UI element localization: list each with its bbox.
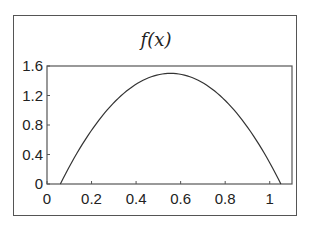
x-tick-label: 0.8 xyxy=(215,190,236,207)
series-line-f xyxy=(60,73,280,184)
x-tick-label: 0.4 xyxy=(126,190,147,207)
y-tick-label: 1.2 xyxy=(22,87,43,104)
x-tick-label: 1 xyxy=(266,190,274,207)
x-axis: 00.20.40.60.81 xyxy=(43,181,274,207)
y-tick-label: 0.8 xyxy=(22,116,43,133)
y-tick-label: 0 xyxy=(35,175,43,192)
y-axis: 00.40.81.21.6 xyxy=(22,57,50,192)
chart-title: f(x) xyxy=(139,29,172,50)
plot-area xyxy=(47,66,292,184)
x-tick-label: 0 xyxy=(43,190,51,207)
x-tick-label: 0.2 xyxy=(81,190,102,207)
y-tick-label: 0.4 xyxy=(22,146,43,163)
x-tick-label: 0.6 xyxy=(170,190,191,207)
chart-canvas: f(x) 00.20.40.60.81 00.40.81.21.6 xyxy=(0,0,315,243)
y-tick-label: 1.6 xyxy=(22,57,43,74)
